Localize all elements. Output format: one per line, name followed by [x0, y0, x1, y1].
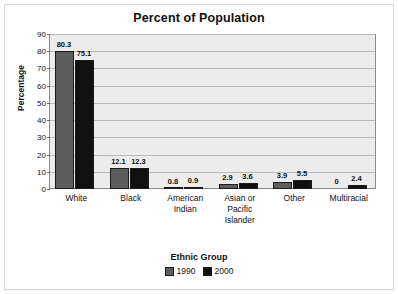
x-axis-tick: Multiracial: [318, 193, 380, 204]
bar-2000-american-indian[interactable]: [184, 187, 203, 189]
chart-legend: 19902000: [5, 266, 393, 276]
bar-1990-american-indian[interactable]: [164, 187, 183, 189]
bar-value-label: 75.1: [73, 49, 95, 58]
y-axis-tick: 50: [37, 98, 46, 107]
bar-2000-white[interactable]: [75, 60, 94, 189]
y-axis-tick: 80: [37, 47, 46, 56]
y-axis-tick: 30: [37, 133, 46, 142]
bar-group: 02.4: [322, 34, 377, 189]
bar-group: 2.93.6: [213, 34, 268, 189]
bar-group: 3.95.5: [267, 34, 322, 189]
legend-swatch-icon: [203, 267, 212, 276]
bar-value-label: 5.5: [291, 169, 313, 178]
y-axis-tickmark: [47, 189, 50, 190]
bar-1990-black[interactable]: [110, 168, 129, 189]
bar-value-label: 2.4: [346, 174, 368, 183]
legend-entry-2000[interactable]: 2000: [203, 266, 234, 276]
bar-value-label: 3.6: [237, 172, 259, 181]
bar-value-label: 0.8: [162, 177, 184, 186]
x-axis-tick: Asian orPacificIslander: [209, 193, 271, 226]
y-axis-tick: 60: [37, 81, 46, 90]
bar-value-label: 0.9: [182, 176, 204, 185]
bar-value-label: 3.9: [271, 171, 293, 180]
bar-value-label: 12.1: [108, 157, 130, 166]
bar-group: 12.112.3: [104, 34, 159, 189]
x-axis-tick: AmericanIndian: [154, 193, 216, 215]
bar-group: 80.375.1: [49, 34, 104, 189]
x-axis-title: Ethnic Group: [5, 252, 393, 262]
y-axis-tick: 90: [37, 30, 46, 39]
bar-1990-other[interactable]: [273, 182, 292, 189]
legend-label: 1990: [177, 266, 196, 276]
legend-entry-1990[interactable]: 1990: [165, 266, 196, 276]
x-axis-tick: Other: [263, 193, 325, 204]
y-axis-tick: 40: [37, 116, 46, 125]
bars-layer: 80.375.112.112.30.80.92.93.63.95.502.4: [49, 34, 376, 189]
bar-1990-white[interactable]: [55, 51, 74, 189]
bar-group: 0.80.9: [158, 34, 213, 189]
bar-2000-asian-or-pacific-islander[interactable]: [239, 183, 258, 189]
legend-swatch-icon: [165, 267, 174, 276]
chart-title: Percent of Population: [5, 11, 393, 25]
y-axis-tick: 10: [37, 167, 46, 176]
bar-value-label: 80.3: [53, 40, 75, 49]
x-axis-tick-labels: WhiteBlackAmericanIndianAsian orPacificI…: [49, 193, 376, 251]
legend-label: 2000: [215, 266, 234, 276]
y-axis-tick: 70: [37, 64, 46, 73]
x-axis-tick: White: [45, 193, 107, 204]
bar-2000-other[interactable]: [293, 180, 312, 189]
x-axis-tick: Black: [100, 193, 162, 204]
y-axis-tick: 20: [37, 150, 46, 159]
bar-1990-asian-or-pacific-islander[interactable]: [219, 184, 238, 189]
bar-2000-black[interactable]: [130, 168, 149, 189]
bar-2000-multiracial[interactable]: [348, 185, 367, 189]
chart-container: Percent of Population Percentage 0102030…: [4, 4, 394, 290]
bar-value-label: 2.9: [217, 173, 239, 182]
bar-value-label: 0: [326, 177, 348, 186]
y-axis-tick-labels: 0102030405060708090: [19, 34, 46, 189]
bar-value-label: 12.3: [128, 157, 150, 166]
